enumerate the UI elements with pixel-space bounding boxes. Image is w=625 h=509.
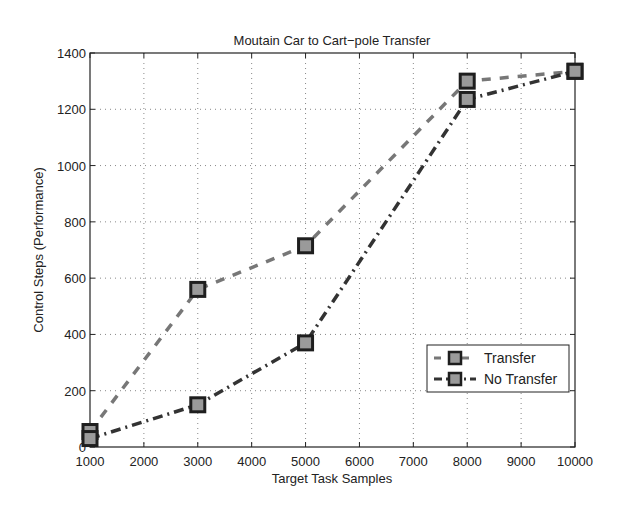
x-tick-label: 1000 <box>76 454 105 469</box>
square-marker-icon <box>299 239 313 253</box>
x-tick-label: 8000 <box>453 454 482 469</box>
legend-item-no-transfer: No Transfer <box>434 371 557 387</box>
x-tick-label: 2000 <box>129 454 158 469</box>
y-tick-label: 600 <box>64 271 86 286</box>
square-marker-icon <box>449 352 461 364</box>
square-marker-icon <box>191 282 205 296</box>
x-tick-label: 4000 <box>237 454 266 469</box>
legend-item-transfer: Transfer <box>434 350 536 366</box>
x-tick-label: 5000 <box>291 454 320 469</box>
x-tick-labels: 1000200030004000500060007000800090001000… <box>76 454 594 469</box>
square-marker-icon <box>83 432 97 446</box>
x-tick-label: 10000 <box>557 454 593 469</box>
square-marker-icon <box>191 398 205 412</box>
y-axis-label: Control Steps (Performance) <box>31 167 46 332</box>
square-marker-icon <box>299 336 313 350</box>
x-axis-label: Target Task Samples <box>272 471 393 486</box>
y-tick-label: 400 <box>64 327 86 342</box>
x-tick-label: 7000 <box>399 454 428 469</box>
x-tick-label: 6000 <box>345 454 374 469</box>
legend-label-no-transfer: No Transfer <box>484 371 557 387</box>
y-tick-label: 1400 <box>57 46 86 61</box>
legend-label-transfer: Transfer <box>484 350 536 366</box>
y-tick-label: 200 <box>64 384 86 399</box>
square-marker-icon <box>460 74 474 88</box>
square-marker-icon <box>568 64 582 78</box>
legend: Transfer No Transfer <box>427 345 569 392</box>
y-tick-label: 1200 <box>57 102 86 117</box>
x-tick-label: 3000 <box>183 454 212 469</box>
x-tick-label: 9000 <box>507 454 536 469</box>
square-marker-icon <box>449 373 461 385</box>
y-tick-labels: 0200400600800100012001400 <box>57 46 86 455</box>
y-tick-label: 800 <box>64 215 86 230</box>
chart-title: Moutain Car to Cart−pole Transfer <box>234 33 432 48</box>
y-tick-label: 1000 <box>57 159 86 174</box>
square-marker-icon <box>460 92 474 106</box>
line-chart: Moutain Car to Cart−pole Transfer 100020… <box>0 0 625 509</box>
